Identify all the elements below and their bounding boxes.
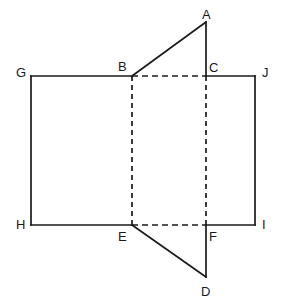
vertex-label-E: E <box>118 230 127 243</box>
vertex-label-G: G <box>16 66 26 79</box>
vertex-label-B: B <box>118 60 127 73</box>
edge-B-A <box>132 22 206 76</box>
vertex-label-H: H <box>16 218 25 231</box>
figure-canvas <box>0 0 283 305</box>
edge-E-D <box>132 225 206 277</box>
vertex-label-C: C <box>209 61 218 74</box>
vertex-label-I: I <box>262 218 266 231</box>
vertex-label-F: F <box>209 230 217 243</box>
vertex-label-D: D <box>201 285 210 298</box>
geometry-figure: A B C D E F G H I J <box>0 0 283 305</box>
vertex-label-J: J <box>262 66 269 79</box>
vertex-label-A: A <box>202 8 211 21</box>
